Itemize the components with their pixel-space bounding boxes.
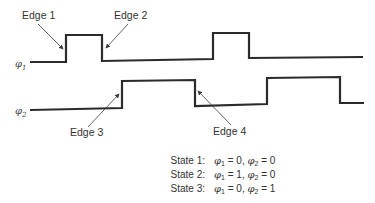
edge-4-arrow	[198, 91, 231, 125]
phi2-waveform	[30, 77, 364, 110]
edge-1-arrow	[38, 24, 63, 49]
edge-3-arrow	[88, 94, 119, 127]
phi2-label: φ2	[15, 105, 27, 119]
state-row: State 1: φ1 = 0, φ2 = 0	[155, 155, 275, 169]
state-row: State 3: φ1 = 0, φ2 = 1	[155, 183, 275, 197]
state-row: State 2: φ1 = 1, φ2 = 0	[155, 169, 275, 183]
phi1-waveform	[30, 33, 363, 62]
edge-4-label: Edge 4	[213, 125, 246, 137]
phi1-label: φ1	[15, 58, 26, 72]
state-legend: State 1: φ1 = 0, φ2 = 0 State 2: φ1 = 1,…	[155, 155, 275, 197]
edge-3-label: Edge 3	[70, 126, 103, 138]
edge-2-label: Edge 2	[114, 9, 147, 21]
edge-1-label: Edge 1	[22, 9, 55, 21]
edge-2-arrow	[106, 24, 128, 48]
